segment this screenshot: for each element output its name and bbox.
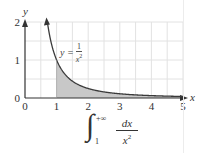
integrand-denominator: x2 [116,131,138,146]
y-tick-1: 1 [15,54,21,66]
curve-annotation: y = 1 x2 [60,42,82,64]
integral-lower-limit: 1 [95,137,99,146]
x-tick-1: 1 [54,100,60,112]
x-axis-label: x [189,91,195,103]
y-tick-2: 2 [15,16,21,28]
y-axis-label: y [22,5,28,17]
integrand-fraction: dx x2 [116,117,138,146]
curve-label-denominator: x2 [76,52,83,64]
integral-upper-limit: +∞ [96,114,106,123]
curve-label-fraction: 1 x2 [76,42,83,64]
x-tick-4: 4 [149,100,155,112]
curve-label-lhs: y = [60,47,74,58]
curve-label-exponent: 2 [79,53,82,59]
x-tick-3: 3 [117,100,123,112]
y-tick-0: 0 [15,92,21,104]
integrand-exponent: 2 [128,133,132,141]
curve-label-numerator: 1 [76,42,82,52]
x-tick-0: 0 [22,100,28,112]
y-axis-arrow-icon [22,19,28,27]
integral-formula: ∫ +∞ 1 dx x2 [86,114,156,150]
integrand-numerator: dx [116,117,138,131]
integral-sign-icon: ∫ [86,110,94,140]
page-divider [183,0,184,153]
